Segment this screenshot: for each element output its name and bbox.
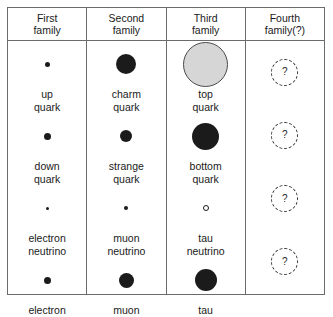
- particle-marker-icon: [203, 205, 209, 211]
- particle-label-line2: quark: [112, 101, 141, 114]
- question-circle-icon: ?: [271, 59, 298, 86]
- particle-families-table: First family Second family Third family …: [7, 7, 325, 295]
- particle-cell-down-quark: down quark: [8, 113, 86, 185]
- particle-label-line1: down: [34, 160, 60, 173]
- particle-label-line1: strange: [109, 160, 144, 173]
- question-circle-icon: ?: [271, 122, 298, 149]
- table-body: up quark down quark electron: [8, 41, 324, 294]
- particle-marker-icon: [45, 62, 50, 67]
- particle-cell-top-quark: top quark: [167, 41, 245, 113]
- particle-label-line1: charm: [112, 88, 141, 101]
- particle-cell-charm-quark: charm quark: [87, 41, 165, 113]
- marker-wrap: [167, 257, 245, 303]
- particle-label: up quark: [34, 88, 60, 113]
- column-header-first-family: First family: [8, 8, 87, 40]
- particle-label-line2: neutrino: [187, 245, 225, 258]
- particle-marker-icon: [124, 206, 128, 210]
- marker-wrap: [87, 113, 165, 159]
- marker-wrap: [87, 257, 165, 303]
- column-header-third-family: Third family: [167, 8, 246, 40]
- particle-label: bottom quark: [190, 160, 222, 185]
- particle-label-line1: muon: [113, 304, 139, 317]
- particle-marker-icon: [120, 130, 132, 142]
- column-header-line2: family: [33, 24, 60, 37]
- marker-wrap: [8, 257, 86, 303]
- particle-label-line2: quark: [192, 101, 218, 114]
- particle-label: electron: [28, 304, 65, 317]
- particle-label: charm quark: [112, 88, 141, 113]
- question-circle-icon: ?: [271, 185, 298, 212]
- particle-cell-strange-quark: strange quark: [87, 113, 165, 185]
- marker-wrap: [87, 41, 165, 87]
- particle-cell-muon-neutrino: muon neutrino: [87, 185, 165, 257]
- particle-label: muon neutrino: [107, 232, 145, 257]
- column-header-line1: Second: [109, 12, 145, 25]
- particle-label-line1: up: [34, 88, 60, 101]
- marker-wrap: ?: [246, 239, 324, 285]
- particle-label: tau neutrino: [187, 232, 225, 257]
- particle-cell-tau: tau: [167, 257, 245, 317]
- particle-cell-tau-neutrino: tau neutrino: [167, 185, 245, 257]
- marker-wrap: [8, 41, 86, 87]
- particle-cell-muon: muon: [87, 257, 165, 317]
- particle-marker-icon: [44, 277, 51, 284]
- particle-label-line2: quark: [109, 173, 144, 186]
- column-header-line1: Third: [194, 12, 218, 25]
- particle-label: top quark: [192, 88, 218, 113]
- marker-wrap: [8, 185, 86, 231]
- particle-label-line1: muon: [107, 232, 145, 245]
- particle-marker-icon: [119, 273, 134, 288]
- particle-cell-up-quark: up quark: [8, 41, 86, 113]
- particle-label-line1: top: [192, 88, 218, 101]
- particle-label-line2: quark: [34, 101, 60, 114]
- particle-label-line2: quark: [34, 173, 60, 186]
- particle-label-line2: neutrino: [28, 245, 66, 258]
- particle-cell-unknown-1: ?: [246, 41, 324, 104]
- particle-cell-electron: electron: [8, 257, 86, 317]
- particle-label-line1: bottom: [190, 160, 222, 173]
- marker-wrap: [167, 185, 245, 231]
- particle-label: down quark: [34, 160, 60, 185]
- particle-marker-icon: [44, 133, 51, 140]
- marker-wrap: ?: [246, 176, 324, 222]
- particle-marker-icon: [116, 54, 136, 74]
- particle-label-line1: tau: [198, 304, 213, 317]
- marker-wrap: [87, 185, 165, 231]
- particle-label: electron neutrino: [28, 232, 66, 257]
- family-column-first: up quark down quark electron: [8, 41, 87, 294]
- column-header-line2: family: [113, 24, 140, 37]
- family-column-second: charm quark strange quark muon: [87, 41, 166, 294]
- column-header-line2: family: [192, 24, 219, 37]
- column-header-line1: Fourth: [270, 12, 300, 25]
- question-circle-icon: ?: [271, 248, 298, 275]
- particle-cell-bottom-quark: bottom quark: [167, 113, 245, 185]
- particle-label-line1: electron: [28, 304, 65, 317]
- marker-wrap: [8, 113, 86, 159]
- particle-label-line1: tau: [187, 232, 225, 245]
- particle-label: muon: [113, 304, 139, 317]
- particle-label: tau: [198, 304, 213, 317]
- particle-marker-icon: [183, 42, 228, 87]
- column-header-fourth-family: Fourth family(?): [246, 8, 324, 40]
- table-header-row: First family Second family Third family …: [8, 8, 324, 41]
- particle-label: strange quark: [109, 160, 144, 185]
- particle-marker-icon: [192, 123, 219, 150]
- particle-label-line2: neutrino: [107, 245, 145, 258]
- marker-wrap: [167, 113, 245, 159]
- marker-wrap: ?: [246, 112, 324, 158]
- family-column-third: top quark bottom quark tau n: [167, 41, 246, 294]
- column-header-second-family: Second family: [87, 8, 166, 40]
- particle-marker-icon: [46, 207, 49, 210]
- particle-cell-unknown-4: ?: [246, 231, 324, 294]
- marker-wrap: ?: [246, 49, 324, 95]
- particle-cell-electron-neutrino: electron neutrino: [8, 185, 86, 257]
- particle-cell-unknown-3: ?: [246, 168, 324, 231]
- column-header-line2: family(?): [265, 24, 305, 37]
- family-column-fourth: ? ? ?: [246, 41, 324, 294]
- particle-label-line1: electron: [28, 232, 66, 245]
- particle-cell-unknown-2: ?: [246, 104, 324, 167]
- marker-wrap: [167, 41, 245, 87]
- particle-marker-icon: [195, 269, 217, 291]
- particle-label-line2: quark: [190, 173, 222, 186]
- column-header-line1: First: [37, 12, 57, 25]
